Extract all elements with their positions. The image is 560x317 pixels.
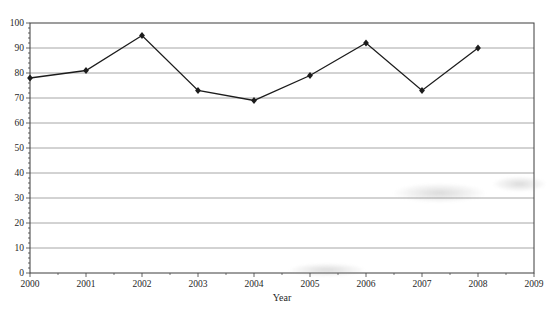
y-tick-label: 10 <box>15 243 25 253</box>
chart-svg: 0102030405060708090100200020012002200320… <box>0 0 560 317</box>
y-tick-label: 60 <box>15 118 25 128</box>
data-point-marker <box>27 75 33 82</box>
scanned-line-chart: Number of Deaths 2000 - 2008 01020304050… <box>0 0 560 317</box>
series-line <box>30 36 478 101</box>
x-tick-label: 2004 <box>245 279 264 289</box>
y-tick-label: 90 <box>15 43 25 53</box>
y-tick-label: 20 <box>15 218 25 228</box>
x-tick-label: 2008 <box>469 279 488 289</box>
x-tick-label: 2005 <box>301 279 320 289</box>
x-tick-label: 2009 <box>525 279 544 289</box>
y-tick-label: 70 <box>15 93 25 103</box>
x-tick-label: 2003 <box>189 279 208 289</box>
x-axis-title: Year <box>30 292 534 303</box>
y-tick-label: 30 <box>15 193 25 203</box>
x-tick-label: 2002 <box>133 279 152 289</box>
y-tick-label: 80 <box>15 68 25 78</box>
y-tick-label: 0 <box>19 268 24 278</box>
y-tick-label: 40 <box>15 168 25 178</box>
x-tick-label: 2001 <box>77 279 96 289</box>
y-tick-label: 50 <box>15 143 25 153</box>
x-tick-label: 2006 <box>357 279 376 289</box>
y-tick-label: 100 <box>10 18 25 28</box>
data-point-marker <box>475 45 481 52</box>
x-tick-label: 2007 <box>413 279 432 289</box>
x-tick-label: 2000 <box>21 279 40 289</box>
